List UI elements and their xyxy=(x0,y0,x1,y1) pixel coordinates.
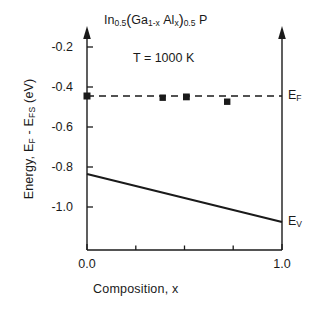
data-markers xyxy=(84,93,231,105)
y-axis-right xyxy=(278,26,286,250)
data-marker xyxy=(84,93,91,100)
x-tick-label: 0.0 xyxy=(64,258,110,271)
ef-label-sub: F xyxy=(296,93,301,103)
ef-curve-label: EF xyxy=(288,89,302,103)
y-axis-ticks xyxy=(87,47,93,207)
x-tick-label: 1.0 xyxy=(259,258,305,271)
series-ev-line xyxy=(87,174,282,222)
ev-curve-label: EV xyxy=(288,215,302,229)
y-axis-title: Energy, EF - EFS (eV) xyxy=(23,49,37,229)
y-axis-title-main: Energy, E xyxy=(22,144,36,200)
x-axis-title: Composition, x xyxy=(93,283,178,296)
y-axis-title-sub1: F xyxy=(27,138,37,143)
title-close-sub: 0.5 xyxy=(184,18,196,28)
title-al: Al xyxy=(163,13,174,27)
data-marker xyxy=(224,99,230,105)
title-ga-sub: 1-x xyxy=(148,18,160,28)
ev-label-sub: V xyxy=(296,219,302,229)
title-p: P xyxy=(199,13,207,27)
temperature-annotation: T = 1000 K xyxy=(133,52,194,65)
chart-title: In0.5(Ga1-x Alx)0.5 P xyxy=(104,12,207,28)
y-axis-title-mid: - E xyxy=(22,118,36,138)
chart-figure: In0.5(Ga1-x Alx)0.5 P T = 1000 K -0.2 -0… xyxy=(0,0,314,309)
title-in: In xyxy=(104,13,114,27)
title-ga: Ga xyxy=(131,13,148,27)
x-axis-ticks xyxy=(87,244,282,250)
y-axis-title-sub2: FS xyxy=(27,107,37,118)
y-axis-left xyxy=(83,26,91,250)
title-in-sub: 0.5 xyxy=(114,18,126,28)
y-axis-title-unit: (eV) xyxy=(22,79,36,107)
data-marker xyxy=(183,94,190,101)
data-marker xyxy=(160,95,166,101)
